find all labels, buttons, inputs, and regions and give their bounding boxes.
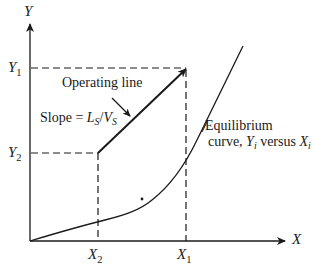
x-axis-label: X xyxy=(292,232,301,247)
equilibrium-prefix: curve, xyxy=(208,134,246,149)
equilibrium-label-line1: Equilibrium xyxy=(205,119,273,133)
x1-sub: 1 xyxy=(186,254,191,265)
y2-sub: 2 xyxy=(16,152,21,163)
equilibrium-x-sub: i xyxy=(308,140,311,151)
operating-line-label: Operating line xyxy=(62,76,142,90)
x2-tick-label: X2 xyxy=(88,247,102,265)
equilibrium-label-line2: curve, Yi versus Xi xyxy=(208,135,311,151)
x2-sub: 2 xyxy=(97,254,102,265)
x2-base: X xyxy=(88,246,97,262)
slope-v: V xyxy=(103,110,112,125)
y2-tick-label: Y2 xyxy=(8,145,22,163)
slope-l: L xyxy=(87,110,95,125)
equilibrium-x: X xyxy=(299,134,308,149)
equilibrium-versus: versus xyxy=(257,134,300,149)
y-axis-label: Y xyxy=(24,4,32,19)
x1-tick-label: X1 xyxy=(177,247,191,265)
slope-label: Slope = LS/VS xyxy=(40,111,117,127)
curve-dot-marker xyxy=(141,198,144,201)
y1-sub: 1 xyxy=(16,67,21,78)
slope-v-sub: S xyxy=(112,116,117,127)
equilibrium-y: Y xyxy=(246,134,254,149)
y1-tick-label: Y1 xyxy=(8,60,22,78)
x1-base: X xyxy=(177,246,186,262)
diagram-canvas: Y X Y1 Y2 X2 X1 Operating line Slope = L… xyxy=(0,0,313,273)
slope-prefix: Slope = xyxy=(40,110,87,125)
